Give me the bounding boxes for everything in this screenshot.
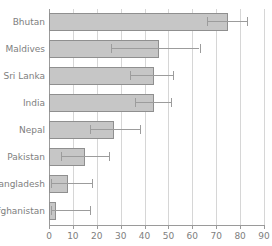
bar-row <box>49 9 264 36</box>
error-cap-low <box>90 125 91 134</box>
x-axis-line <box>49 225 265 226</box>
y-axis-labels: BhutanMaldivesSri LankaIndiaNepalPakista… <box>0 9 45 225</box>
bar-pakistan <box>49 148 85 166</box>
x-tick-80 <box>240 225 241 229</box>
error-bar-afghanistan <box>51 210 89 211</box>
y-label-pakistan: Pakistan <box>7 144 45 171</box>
error-cap-high <box>90 206 91 215</box>
error-bar-sri-lanka <box>130 75 173 76</box>
x-tick-40 <box>145 225 146 229</box>
x-tick-50 <box>168 225 169 229</box>
error-cap-high <box>247 17 248 26</box>
bar-afghanistan <box>49 202 56 220</box>
x-tick-label-50: 50 <box>156 231 180 241</box>
bar-nepal <box>49 121 114 139</box>
bar-maldives <box>49 40 159 58</box>
chart-title-cropped <box>0 0 272 7</box>
y-label-nepal: Nepal <box>19 117 45 144</box>
error-bar-nepal <box>90 129 140 130</box>
error-cap-low <box>51 206 52 215</box>
error-cap-high <box>200 44 201 53</box>
y-label-india: India <box>23 90 45 117</box>
x-tick-60 <box>192 225 193 229</box>
bar-row <box>49 171 264 198</box>
error-cap-high <box>109 152 110 161</box>
error-bar-pakistan <box>61 156 109 157</box>
x-tick-10 <box>73 225 74 229</box>
x-tick-70 <box>216 225 217 229</box>
bar-row <box>49 90 264 117</box>
x-tick-label-10: 10 <box>61 231 85 241</box>
bar-sri-lanka <box>49 67 154 85</box>
x-tick-label-60: 60 <box>180 231 204 241</box>
x-tick-90 <box>264 225 265 229</box>
x-tick-label-30: 30 <box>109 231 133 241</box>
plot-area <box>49 9 264 225</box>
x-tick-label-80: 80 <box>228 231 252 241</box>
error-bar-maldives <box>111 48 199 49</box>
error-cap-high <box>140 125 141 134</box>
x-tick-label-40: 40 <box>133 231 157 241</box>
y-label-bangladesh: Bangladesh <box>0 171 45 198</box>
y-label-maldives: Maldives <box>5 36 45 63</box>
bar-chart: BhutanMaldivesSri LankaIndiaNepalPakista… <box>0 0 272 246</box>
x-tick-label-0: 0 <box>37 231 61 241</box>
y-label-afghanistan: Afghanistan <box>0 198 45 225</box>
y-label-bhutan: Bhutan <box>13 9 45 36</box>
x-tick-label-70: 70 <box>204 231 228 241</box>
bar-bhutan <box>49 13 228 31</box>
x-tick-label-20: 20 <box>85 231 109 241</box>
error-cap-high <box>171 98 172 107</box>
y-label-sri-lanka: Sri Lanka <box>3 63 45 90</box>
x-tick-0 <box>49 225 50 229</box>
gridline-90 <box>264 9 265 225</box>
error-cap-low <box>135 98 136 107</box>
error-bar-india <box>135 102 171 103</box>
bar-india <box>49 94 154 112</box>
bar-rows <box>49 9 264 225</box>
error-cap-high <box>173 71 174 80</box>
error-cap-low <box>207 17 208 26</box>
x-tick-label-90: 90 <box>252 231 272 241</box>
bar-row <box>49 63 264 90</box>
error-cap-high <box>92 179 93 188</box>
error-bar-bhutan <box>207 21 248 22</box>
error-bar-bangladesh <box>51 183 92 184</box>
bar-row <box>49 117 264 144</box>
error-cap-low <box>111 44 112 53</box>
x-tick-30 <box>121 225 122 229</box>
bar-row <box>49 198 264 225</box>
error-cap-low <box>130 71 131 80</box>
bar-row <box>49 36 264 63</box>
error-cap-low <box>61 152 62 161</box>
error-cap-low <box>51 179 52 188</box>
x-tick-20 <box>97 225 98 229</box>
bar-row <box>49 144 264 171</box>
